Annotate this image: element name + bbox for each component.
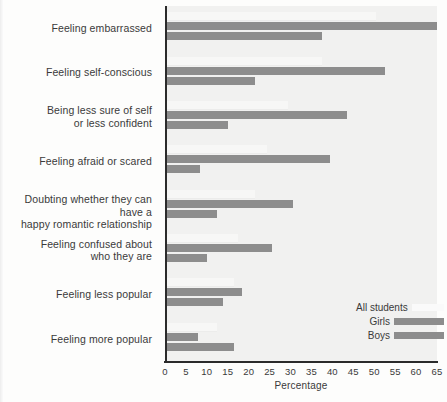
bar-boys: [167, 165, 200, 173]
bar-boys: [167, 298, 223, 306]
bar-girls: [167, 22, 437, 30]
category-label: Doubting whether they can have ahappy ro…: [0, 193, 152, 231]
category-label: Feeling afraid or scared: [0, 155, 152, 168]
bar-boys: [167, 121, 228, 129]
bar-girls: [167, 244, 272, 252]
x-tick-label: 40: [327, 366, 338, 377]
legend-label: Girls: [369, 316, 390, 327]
bar-all-students: [167, 190, 255, 199]
bar-boys: [167, 343, 234, 351]
category-label: Feeling more popular: [0, 333, 152, 346]
category-label-line: who they are: [0, 250, 152, 263]
category-label: Feeling embarrassed: [0, 22, 152, 35]
legend-swatch: [394, 332, 444, 339]
bar-girls: [167, 333, 198, 341]
category-label: Feeling self-conscious: [0, 66, 152, 79]
x-axis-line: [164, 361, 438, 363]
x-tick-label: 35: [306, 366, 317, 377]
bar-boys: [167, 77, 255, 85]
bar-all-students: [167, 278, 234, 287]
category-label-line: Feeling self-conscious: [0, 66, 152, 79]
bar-boys: [167, 32, 322, 40]
x-tick-label: 5: [183, 366, 188, 377]
category-label-line: happy romantic relationship: [0, 218, 152, 231]
category-label-line: Feeling afraid or scared: [0, 155, 152, 168]
legend-swatch: [394, 318, 444, 325]
bar-boys: [167, 254, 207, 262]
bar-girls: [167, 111, 347, 119]
bar-all-students: [167, 101, 288, 110]
chart-root: Feeling embarrassedFeeling self-consciou…: [0, 0, 447, 402]
x-tick-label: 50: [369, 366, 380, 377]
category-label: Feeling confused aboutwho they are: [0, 238, 152, 263]
bar-all-students: [167, 12, 376, 21]
bar-boys: [167, 210, 217, 218]
x-tick-label: 20: [243, 366, 254, 377]
category-label: Feeling less popular: [0, 288, 152, 301]
category-label-line: Feeling embarrassed: [0, 22, 152, 35]
x-tick-label: 10: [201, 366, 212, 377]
bar-all-students: [167, 145, 267, 154]
x-tick-label: 55: [390, 366, 401, 377]
legend-item: Boys: [356, 329, 444, 341]
x-tick-label: 45: [348, 366, 359, 377]
legend-label: All students: [356, 302, 408, 313]
bar-all-students: [167, 57, 322, 66]
category-label-line: Feeling more popular: [0, 333, 152, 346]
x-tick-label: 15: [222, 366, 233, 377]
category-label-line: Feeling less popular: [0, 288, 152, 301]
legend: All studentsGirlsBoys: [356, 301, 444, 343]
x-tick-label: 60: [411, 366, 422, 377]
bar-girls: [167, 200, 293, 208]
legend-item: Girls: [356, 315, 444, 327]
x-tick-label: 30: [285, 366, 296, 377]
x-tick-label: 25: [264, 366, 275, 377]
x-tick-label: 0: [162, 366, 167, 377]
legend-label: Boys: [368, 330, 390, 341]
legend-swatch: [412, 304, 444, 311]
x-tick-label: 65: [432, 366, 443, 377]
category-label-line: or less confident: [0, 117, 152, 130]
bar-all-students: [167, 323, 217, 332]
bar-girls: [167, 67, 385, 75]
legend-item: All students: [356, 301, 444, 313]
bar-all-students: [167, 234, 238, 243]
category-label-line: Being less sure of self: [0, 104, 152, 117]
bar-girls: [167, 288, 242, 296]
bar-girls: [167, 155, 330, 163]
category-label-line: Doubting whether they can have a: [0, 193, 152, 218]
category-axis-labels: Feeling embarrassedFeeling self-consciou…: [0, 0, 160, 362]
x-axis-title: Percentage: [165, 380, 437, 391]
category-label-line: Feeling confused about: [0, 238, 152, 251]
category-label: Being less sure of selfor less confident: [0, 104, 152, 129]
